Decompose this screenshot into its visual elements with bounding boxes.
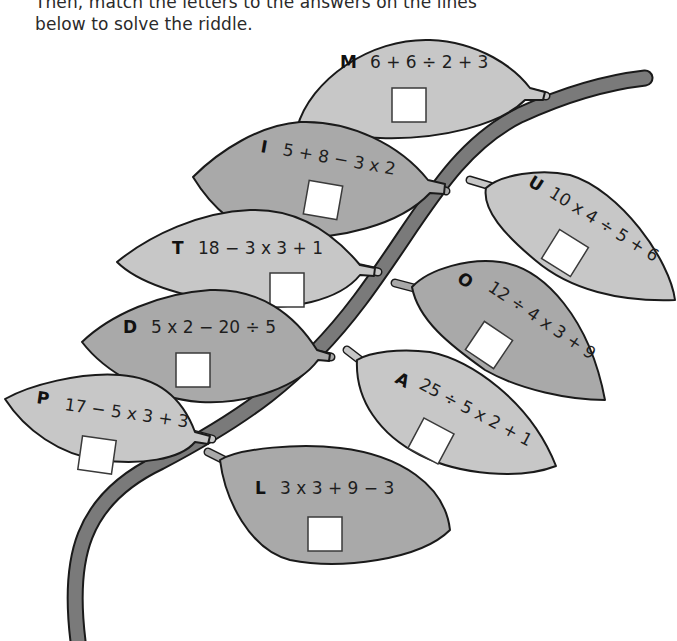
answer-box-m[interactable]	[392, 88, 426, 122]
leaf-letter: M	[340, 52, 357, 72]
leaf-l: L3 x 3 + 9 − 3	[208, 446, 450, 564]
leaf-letter: L	[255, 478, 266, 498]
leaf-letter: D	[123, 317, 137, 337]
answer-box-t[interactable]	[270, 273, 304, 307]
answer-box-p[interactable]	[78, 436, 116, 474]
leaf-branch-illustration: M6 + 6 ÷ 2 + 3I5 + 8 − 3 x 2U10 x 4 ÷ 5 …	[0, 0, 677, 641]
leaf-expression: 18 − 3 x 3 + 1	[198, 238, 323, 258]
answer-box-l[interactable]	[308, 517, 342, 551]
leaf-expression: 5 x 2 − 20 ÷ 5	[151, 317, 276, 337]
answer-box-i[interactable]	[303, 180, 342, 219]
answer-box-d[interactable]	[176, 353, 210, 387]
leaf-expression: 3 x 3 + 9 − 3	[280, 478, 394, 498]
leaf-expression: 6 + 6 ÷ 2 + 3	[370, 52, 488, 72]
leaf-letter: T	[172, 238, 184, 258]
